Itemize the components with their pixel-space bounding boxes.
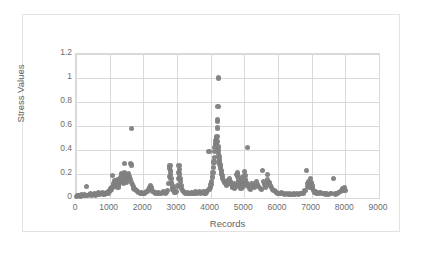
data-point xyxy=(129,162,134,167)
data-point xyxy=(122,161,127,166)
data-point xyxy=(216,75,221,80)
data-point xyxy=(210,170,215,175)
data-point xyxy=(211,159,216,164)
x-axis-title: Records xyxy=(75,218,380,229)
y-tick-label: 1 xyxy=(52,72,72,81)
y-axis-title: Stress Values xyxy=(15,44,26,144)
data-point xyxy=(245,145,250,150)
data-point xyxy=(211,165,216,170)
y-tick-label: 0.8 xyxy=(52,96,72,105)
x-axis-tick-labels: 0100020003000400050006000700080009000 xyxy=(75,202,380,214)
y-tick-label: 0.2 xyxy=(52,168,72,177)
data-point xyxy=(210,174,215,179)
gridline-horizontal xyxy=(76,198,379,199)
data-point xyxy=(331,176,336,181)
data-point xyxy=(342,188,347,193)
scatter-chart: 00.20.40.60.811.2 0100020003000400050006… xyxy=(0,0,423,257)
data-point xyxy=(304,168,309,173)
y-tick-label: 0.6 xyxy=(52,120,72,129)
data-point xyxy=(215,125,220,130)
data-points-layer xyxy=(76,54,379,198)
data-point xyxy=(129,126,134,131)
data-point xyxy=(206,149,211,154)
data-point xyxy=(84,184,89,189)
y-tick-label: 1.2 xyxy=(52,48,72,57)
plot-area xyxy=(75,53,380,199)
y-tick-label: 0 xyxy=(52,192,72,201)
x-tick-label: 9000 xyxy=(358,202,398,212)
y-tick-label: 0.4 xyxy=(52,144,72,153)
y-axis-tick-labels: 00.20.40.60.811.2 xyxy=(50,53,72,199)
data-point xyxy=(215,104,220,109)
gridline-vertical xyxy=(379,54,380,198)
data-point xyxy=(214,134,219,139)
